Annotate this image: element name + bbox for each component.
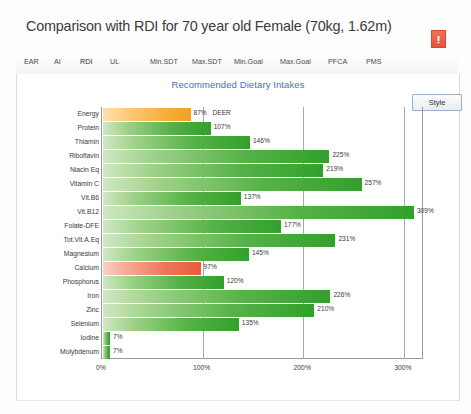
x-tick-label-0: 0%	[96, 364, 106, 371]
bar-row: 97%	[103, 262, 425, 275]
bar-row: 7%	[103, 332, 425, 345]
bar-row: 87%DEER	[103, 108, 425, 121]
tab-min-goal[interactable]: Min.Goal	[232, 56, 265, 67]
tab-rdi[interactable]: RDI	[78, 56, 94, 67]
bar-value-label: 137%	[244, 193, 261, 200]
bar-row: 309%	[103, 206, 425, 219]
category-label-vitamin-c: Vitamin C	[70, 180, 99, 187]
chart-title: Recommended Dietary Intakes	[17, 79, 459, 90]
bar-value-label: 7%	[113, 347, 123, 354]
x-tick-label-300: 300%	[394, 364, 411, 371]
bar-niacin-eq[interactable]	[103, 164, 323, 177]
page-title: Comparison with RDI for 70 year old Fema…	[26, 18, 392, 34]
tab-ul[interactable]: UL	[108, 56, 121, 67]
bar-phosphorus[interactable]	[103, 276, 224, 289]
category-label-thiamin: Thiamin	[75, 138, 99, 145]
title-bar: Comparison with RDI for 70 year old Fema…	[0, 0, 471, 46]
bar-value-label: 87%	[194, 109, 207, 116]
bar-folate-dfe[interactable]	[103, 220, 281, 233]
bar-row: 177%	[103, 220, 425, 233]
bar-value-label: 145%	[252, 249, 269, 256]
category-label-folate-dfe: Folate-DFE	[64, 222, 99, 229]
bar-zinc[interactable]	[103, 304, 314, 317]
tab-pms[interactable]: PMS	[364, 56, 384, 67]
category-label-iron: Iron	[87, 292, 99, 299]
bar-riboflavin[interactable]	[103, 150, 329, 163]
tab-ai[interactable]: AI	[52, 56, 63, 67]
bar-iron[interactable]	[103, 290, 330, 303]
bar-row: 226%	[103, 290, 425, 303]
bar-value-label: 219%	[326, 165, 343, 172]
bar-thiamin[interactable]	[103, 136, 250, 149]
tab-max-sdt[interactable]: Max.SDT	[190, 56, 224, 67]
tab-ear[interactable]: EAR	[22, 56, 41, 67]
category-label-riboflavin: Riboflavin	[69, 152, 99, 159]
bar-molybdenum[interactable]	[103, 346, 110, 359]
bar-vit-b12[interactable]	[103, 206, 414, 219]
bar-row: 146%	[103, 136, 425, 149]
bar-value-label: 257%	[365, 179, 382, 186]
bar-row: 225%	[103, 150, 425, 163]
close-icon[interactable]	[431, 30, 446, 48]
bar-row: 120%	[103, 276, 425, 289]
bar-calcium[interactable]	[103, 262, 201, 275]
bar-value-label: 177%	[284, 221, 301, 228]
bar-value-label: 146%	[253, 137, 270, 144]
bar-value-label: 107%	[214, 123, 231, 130]
bar-value-label: 7%	[113, 333, 123, 340]
bar-row: 135%	[103, 318, 425, 331]
bar-value-label: 120%	[227, 277, 244, 284]
bar-vit-b6[interactable]	[103, 192, 241, 205]
bar-tot-vit-a-eq[interactable]	[103, 234, 335, 247]
bar-energy[interactable]	[103, 108, 191, 121]
category-label-protein: Protein	[77, 124, 99, 131]
tab-max-goal[interactable]: Max.Goal	[278, 56, 313, 67]
category-label-zinc: Zinc	[86, 306, 99, 313]
bar-value-label: 97%	[204, 263, 217, 270]
category-label-niacin-eq: Niacin Eq	[70, 166, 99, 173]
category-label-tot-vit-a-eq: Tot.Vit.A.Eq	[64, 236, 99, 243]
bar-row: 137%	[103, 192, 425, 205]
chart-panel: Recommended Dietary Intakes Style Energy…	[16, 74, 460, 401]
tab-strip: EARAIRDIULMin.SDTMax.SDTMin.GoalMax.Goal…	[16, 52, 458, 75]
x-tick-label-200: 200%	[294, 364, 311, 371]
bar-value-label: 210%	[317, 305, 334, 312]
bar-iodine[interactable]	[103, 332, 110, 345]
tab-min-sdt[interactable]: Min.SDT	[148, 56, 180, 67]
bar-row: 145%	[103, 248, 425, 261]
bar-row: 210%	[103, 304, 425, 317]
category-label-energy: Energy	[77, 110, 99, 117]
bar-value-label: 225%	[332, 151, 349, 158]
bar-vitamin-c[interactable]	[103, 178, 362, 191]
category-axis-labels: EnergyProteinThiaminRiboflavinNiacin EqV…	[21, 107, 99, 359]
category-label-selenium: Selenium	[71, 320, 99, 327]
bar-value-label: 309%	[417, 207, 434, 214]
plot-area: 87%DEER107%146%225%219%257%137%309%177%2…	[101, 107, 423, 359]
bar-magnesium[interactable]	[103, 248, 249, 261]
bar-value-label: 135%	[242, 319, 259, 326]
bar-row: 219%	[103, 164, 425, 177]
plot-frame: 87%DEER107%146%225%219%257%137%309%177%2…	[101, 107, 423, 359]
bar-row: 231%	[103, 234, 425, 247]
bar-selenium[interactable]	[103, 318, 239, 331]
bar-row: 7%	[103, 346, 425, 359]
bar-annotation-deer: DEER	[213, 109, 231, 116]
x-tick-label-100: 100%	[193, 364, 210, 371]
category-label-magnesium: Magnesium	[64, 250, 99, 257]
bar-protein[interactable]	[103, 122, 211, 135]
category-label-phosphorus: Phosphorus	[63, 278, 99, 285]
category-label-iodine: Iodine	[80, 334, 99, 341]
bar-row: 107%	[103, 122, 425, 135]
category-label-vit-b6: Vit.B6	[81, 194, 99, 201]
bar-row: 257%	[103, 178, 425, 191]
category-label-calcium: Calcium	[74, 264, 99, 271]
bar-value-label: 231%	[338, 235, 355, 242]
category-label-molybdenum: Molybdenum	[60, 348, 99, 355]
tab-pfca[interactable]: PFCA	[326, 56, 349, 67]
panel-bottom-edge	[16, 400, 458, 401]
bar-value-label: 226%	[333, 291, 350, 298]
chart-window: Comparison with RDI for 70 year old Fema…	[0, 0, 471, 414]
category-label-vit-b12: Vit.B12	[77, 208, 99, 215]
